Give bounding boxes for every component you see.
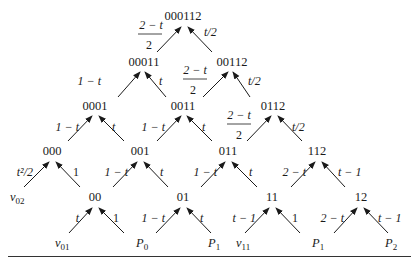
node-00: 00 <box>89 190 102 204</box>
svg-text:t/2: t/2 <box>204 25 217 39</box>
node-00112: 00112 <box>217 55 248 69</box>
edge-arrow <box>118 72 140 97</box>
edge-arrow <box>145 72 166 97</box>
node-001: 001 <box>131 144 150 158</box>
node-000112: 000112 <box>164 9 201 23</box>
edge-arrow <box>203 72 228 97</box>
svg-text:2: 2 <box>190 83 196 97</box>
svg-text:t²/2: t²/2 <box>17 165 33 179</box>
svg-text:1: 1 <box>73 165 79 179</box>
svg-text:1 − t: 1 − t <box>56 120 80 134</box>
node-0011: 0011 <box>171 99 196 113</box>
edge-arrow <box>69 208 92 233</box>
node-11: 11 <box>266 190 278 204</box>
svg-text:t: t <box>202 120 206 134</box>
svg-text:t − 1: t − 1 <box>233 211 256 225</box>
svg-text:t: t <box>159 74 163 88</box>
fraction-label: 2 − t 2 <box>183 63 207 97</box>
fraction-label: 2 − t 2 <box>138 18 163 52</box>
svg-text:1 − t: 1 − t <box>78 74 102 88</box>
svg-text:1 − t: 1 − t <box>194 165 218 179</box>
leaf-v01: v01 <box>55 236 70 252</box>
svg-text:t/2: t/2 <box>248 74 261 88</box>
svg-text:2: 2 <box>236 128 242 142</box>
svg-text:t: t <box>76 211 80 225</box>
svg-text:2 − t: 2 − t <box>283 165 307 179</box>
leaf-p0: P0 <box>135 236 149 252</box>
leaf-v11: v11 <box>236 236 250 252</box>
edge-arrow <box>187 208 211 233</box>
svg-text:1 − t: 1 − t <box>142 120 166 134</box>
leaf-p1-second: P1 <box>311 236 324 252</box>
svg-text:t: t <box>160 165 164 179</box>
svg-text:1: 1 <box>292 211 298 225</box>
node-12: 12 <box>355 190 368 204</box>
svg-text:1 − t: 1 − t <box>142 211 166 225</box>
svg-text:2 − t: 2 − t <box>183 63 207 77</box>
svg-text:t: t <box>200 211 204 225</box>
edge-arrow <box>144 162 168 187</box>
node-01: 01 <box>177 190 190 204</box>
leaf-p1: P1 <box>207 236 220 252</box>
svg-text:t − 1: t − 1 <box>338 165 361 179</box>
node-112: 112 <box>308 144 326 158</box>
svg-text:t/2: t/2 <box>292 120 305 134</box>
blossom-triangle-diagram: 000112 00011 00112 0001 0011 0112 000 00… <box>0 0 411 261</box>
edge-arrow <box>99 208 124 233</box>
node-00011: 00011 <box>129 55 160 69</box>
edge-arrow <box>232 162 257 187</box>
svg-text:2 − t: 2 − t <box>139 18 163 32</box>
node-011: 011 <box>219 144 237 158</box>
fraction-label: 2 − t 2 <box>227 108 251 142</box>
svg-text:2 − t: 2 − t <box>227 108 251 122</box>
svg-text:2 − t: 2 − t <box>321 211 345 225</box>
leaf-v02: v02 <box>10 190 25 206</box>
node-0001: 0001 <box>83 99 108 113</box>
leaf-p2: P2 <box>384 236 397 252</box>
svg-text:1: 1 <box>113 211 119 225</box>
node-0112: 0112 <box>261 99 286 113</box>
svg-text:1 − t: 1 − t <box>105 165 129 179</box>
svg-text:2: 2 <box>146 38 152 52</box>
node-000: 000 <box>43 144 62 158</box>
edge-arrow <box>187 116 212 141</box>
svg-text:t − 1: t − 1 <box>378 211 401 225</box>
svg-text:t: t <box>249 165 253 179</box>
